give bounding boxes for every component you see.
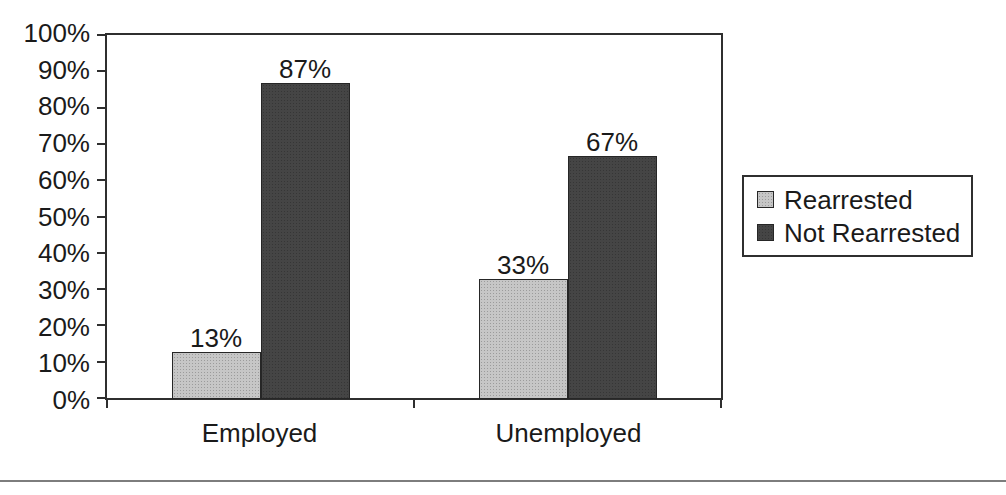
- bar-value-label: 33%: [497, 252, 549, 278]
- y-axis-tick-label: 40%: [38, 240, 90, 266]
- y-axis-tick-label: 100%: [24, 20, 91, 46]
- bottom-divider: [0, 480, 1006, 482]
- bar-value-label: 67%: [586, 129, 638, 155]
- y-axis-tick-mark: [97, 361, 105, 363]
- y-axis-tick-mark: [97, 216, 105, 218]
- y-axis-tick-label: 60%: [38, 167, 90, 193]
- x-axis-labels: EmployedUnemployed: [105, 418, 723, 449]
- y-axis-tick-label: 10%: [38, 350, 90, 376]
- category-label: Unemployed: [414, 418, 723, 449]
- y-axis-tick-mark: [97, 252, 105, 254]
- legend-item-not-rearrested: Not Rearrested: [757, 220, 971, 246]
- bar-rearrested: 13%: [172, 352, 261, 399]
- y-axis-tick-label: 50%: [38, 204, 90, 230]
- x-axis-tick-mark: [413, 400, 415, 408]
- y-axis-tick-label: 20%: [38, 314, 90, 340]
- legend-item-rearrested: Rearrested: [757, 187, 971, 213]
- y-axis-tick-label: 80%: [38, 93, 90, 119]
- y-axis-tick-mark: [97, 107, 105, 109]
- y-axis-tick-mark: [97, 143, 105, 145]
- bar-value-label: 13%: [190, 325, 242, 351]
- y-axis-tick-mark: [97, 179, 105, 181]
- y-axis: 0%10%20%30%40%50%60%70%80%90%100%: [0, 33, 90, 400]
- category-group: 33%67%: [414, 35, 721, 398]
- bar-not-rearrested: 87%: [261, 83, 350, 399]
- bar-value-label: 87%: [279, 56, 331, 82]
- y-axis-tick-label: 0%: [52, 387, 90, 413]
- legend-label-not-rearrested: Not Rearrested: [784, 220, 960, 246]
- x-axis-tick-mark: [720, 400, 722, 408]
- category-label: Employed: [105, 418, 414, 449]
- y-axis-tick-mark: [97, 34, 105, 36]
- bar-not-rearrested: 67%: [568, 156, 657, 399]
- plot-area: 13%87%33%67%: [105, 33, 723, 400]
- bar-rearrested: 33%: [479, 279, 568, 399]
- y-axis-tick-mark: [97, 324, 105, 326]
- y-axis-tick-mark: [97, 397, 105, 399]
- bar-groups: 13%87%33%67%: [107, 35, 721, 398]
- x-axis-tick-mark: [106, 400, 108, 408]
- y-axis-tick-label: 30%: [38, 277, 90, 303]
- y-axis-tick-label: 70%: [38, 130, 90, 156]
- y-axis-tick-mark: [97, 70, 105, 72]
- bar-chart: 0%10%20%30%40%50%60%70%80%90%100% 13%87%…: [0, 0, 1006, 495]
- legend-swatch-not-rearrested-icon: [757, 224, 774, 241]
- legend-swatch-rearrested-icon: [757, 191, 774, 208]
- category-group: 13%87%: [107, 35, 414, 398]
- legend-label-rearrested: Rearrested: [784, 187, 913, 213]
- legend: Rearrested Not Rearrested: [742, 175, 973, 257]
- y-axis-tick-label: 90%: [38, 57, 90, 83]
- y-axis-tick-mark: [97, 288, 105, 290]
